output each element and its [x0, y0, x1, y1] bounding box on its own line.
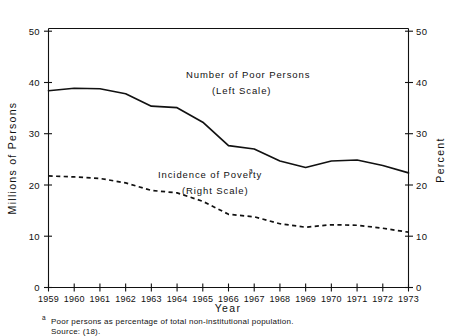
x-axis-title: Year [215, 302, 241, 314]
y-ticklabel-left-50: 50 [29, 26, 40, 37]
y-ticklabel-right-50: 50 [416, 26, 427, 37]
series-number-of-poor-persons [49, 88, 409, 173]
x-ticklabel-1972: 1972 [372, 294, 393, 304]
annotation-incidence-of-poverty: Incidence of Poverty a (Right Scale) [158, 167, 262, 196]
x-ticklabel-1971: 1971 [347, 294, 368, 304]
footnote-source: Source: (18). [51, 327, 101, 336]
annotation-number-of-poor-persons: Number of Poor Persons (Left Scale) [186, 69, 310, 96]
x-ticklabel-1969: 1969 [295, 294, 316, 304]
footnote-block: a Poor persons as percentage of total no… [42, 314, 294, 336]
y-ticklabel-right-20: 20 [416, 180, 427, 191]
y-ticklabel-right-0: 0 [416, 282, 422, 293]
dashed-series-scale-note: (Right Scale) [182, 185, 249, 196]
solid-series-scale-note: (Left Scale) [212, 85, 271, 96]
y-ticklabel-right-10: 10 [416, 231, 427, 242]
y-axis-right-title: Percent [434, 137, 446, 182]
x-ticklabel-1963: 1963 [141, 294, 162, 304]
footnote-text: Poor persons as percentage of total non-… [51, 317, 294, 326]
y-ticklabel-left-10: 10 [29, 231, 40, 242]
y-axis-left-title: Millions of Persons [6, 102, 18, 215]
plot-frame [49, 29, 409, 288]
x-ticklabel-1961: 1961 [90, 294, 111, 304]
footnote-marker: a [42, 314, 46, 321]
x-ticklabel-1968: 1968 [270, 294, 291, 304]
x-ticklabel-1960: 1960 [64, 294, 85, 304]
x-ticklabel-1959: 1959 [38, 294, 59, 304]
y-ticklabel-left-30: 30 [29, 128, 40, 139]
solid-series-label: Number of Poor Persons [186, 69, 310, 80]
x-ticklabel-1973: 1973 [398, 294, 419, 304]
x-ticklabel-1970: 1970 [321, 294, 342, 304]
y-ticklabel-left-0: 0 [34, 282, 40, 293]
x-ticklabel-1962: 1962 [115, 294, 136, 304]
x-ticklabel-1964: 1964 [167, 294, 188, 304]
y-ticklabel-left-40: 40 [29, 77, 40, 88]
y-ticklabel-right-40: 40 [416, 77, 427, 88]
y-ticklabel-left-20: 20 [29, 180, 40, 191]
x-ticklabel-1967: 1967 [244, 294, 265, 304]
x-ticklabel-1965: 1965 [192, 294, 213, 304]
dashed-series-label: Incidence of Poverty [158, 169, 262, 180]
dashed-series-footnote-marker: a [249, 167, 253, 174]
poverty-line-chart: 0 10 20 30 40 50 0 10 20 30 40 50 195919… [0, 0, 453, 336]
y-ticklabel-right-30: 30 [416, 128, 427, 139]
